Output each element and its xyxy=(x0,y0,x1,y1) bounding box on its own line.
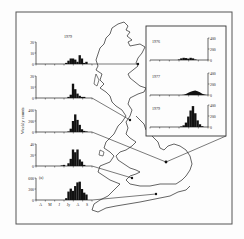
y-tick-label: 0 xyxy=(32,97,34,101)
bar xyxy=(67,192,69,200)
chart-title: 1979 xyxy=(64,34,72,39)
bar xyxy=(70,95,72,98)
bar xyxy=(189,111,191,128)
bar xyxy=(61,165,63,166)
y-tick-label: 0 xyxy=(32,131,34,135)
bar xyxy=(81,129,83,132)
y-tick-label: 400 xyxy=(210,104,216,108)
bar xyxy=(76,150,78,167)
y-tick-label: 0 xyxy=(32,199,34,203)
y-tick-label: 400 xyxy=(28,109,34,113)
bar xyxy=(76,62,78,64)
bar xyxy=(74,89,76,98)
bar xyxy=(72,84,74,98)
x-tick-label: Jy xyxy=(67,203,70,207)
bar xyxy=(187,59,189,60)
y-tick-label: 0 xyxy=(32,63,34,67)
bar xyxy=(79,96,81,98)
bar xyxy=(67,97,69,98)
bar xyxy=(79,182,81,200)
bar xyxy=(192,106,194,127)
y-tick-label: 20 xyxy=(30,41,34,45)
bar xyxy=(72,150,74,167)
bar xyxy=(70,129,72,132)
chart-title: 1976 xyxy=(152,39,160,44)
y-tick-label: 200 xyxy=(210,83,216,87)
bar xyxy=(74,114,76,132)
bar xyxy=(74,186,76,200)
bar xyxy=(76,94,78,98)
bar xyxy=(201,126,203,127)
bar xyxy=(79,55,81,64)
bar xyxy=(196,120,198,127)
y-tick-label: 20 xyxy=(30,154,34,158)
bar xyxy=(187,117,189,127)
y-tick-label: 200 xyxy=(28,120,34,124)
bar xyxy=(76,120,78,132)
bar xyxy=(74,152,76,166)
bar xyxy=(70,159,72,166)
chart-title: (a) xyxy=(39,175,44,180)
bar xyxy=(67,163,69,166)
bar xyxy=(79,159,81,166)
y-tick-label: 0 xyxy=(32,165,34,169)
y-tick-label: 0 xyxy=(210,126,212,130)
bar xyxy=(67,131,69,132)
bar xyxy=(81,162,83,166)
bar xyxy=(81,59,83,65)
bar xyxy=(185,58,187,60)
bar xyxy=(83,165,85,166)
bar xyxy=(72,59,74,65)
bar xyxy=(67,61,69,64)
figure: Weekly counts 01020197901020020040002040… xyxy=(0,0,244,239)
bar xyxy=(83,193,85,200)
bar xyxy=(182,125,184,127)
y-tick-label: 200 xyxy=(210,48,216,52)
bar xyxy=(74,60,76,64)
bar xyxy=(70,59,72,65)
bar xyxy=(81,97,83,98)
bar xyxy=(180,126,182,127)
bar xyxy=(194,113,196,127)
y-tick-label: 0 xyxy=(210,94,212,98)
y-tick-label: 200 xyxy=(210,115,216,119)
y-tick-label: 300 xyxy=(28,188,34,192)
chart-title: 1977 xyxy=(152,74,160,79)
bar xyxy=(189,58,191,60)
x-tick-label: S xyxy=(86,203,88,207)
bar xyxy=(83,63,85,64)
bar xyxy=(72,191,74,200)
bar xyxy=(85,62,87,64)
y-tick-label: 40 xyxy=(30,143,34,147)
bar xyxy=(192,58,194,60)
y-tick-label: 400 xyxy=(210,72,216,76)
bar xyxy=(63,165,65,166)
bar xyxy=(194,59,196,60)
bar xyxy=(182,58,184,60)
bar xyxy=(83,97,85,98)
chart-title: 1979 xyxy=(152,106,160,111)
x-tick-label: A xyxy=(76,203,79,207)
y-tick-label: 600 xyxy=(28,177,34,181)
bar xyxy=(83,131,85,132)
y-tick-label: 0 xyxy=(210,59,212,63)
y-tick-label: 400 xyxy=(210,37,216,41)
y-tick-label: 20 xyxy=(30,75,34,79)
bar xyxy=(81,189,83,200)
y-tick-label: 10 xyxy=(30,52,34,56)
y-axis-label: Weekly counts xyxy=(20,107,25,134)
bar xyxy=(76,182,78,200)
bar xyxy=(70,189,72,200)
bar xyxy=(65,63,67,64)
bar xyxy=(199,124,201,127)
y-tick-label: 10 xyxy=(30,86,34,90)
bar xyxy=(85,195,87,201)
x-tick-label: A xyxy=(39,203,42,207)
bar xyxy=(180,58,182,60)
bar xyxy=(65,198,67,200)
bar xyxy=(185,123,187,127)
bar xyxy=(85,131,87,132)
bar xyxy=(178,59,180,60)
bar xyxy=(72,121,74,132)
bar xyxy=(79,125,81,132)
